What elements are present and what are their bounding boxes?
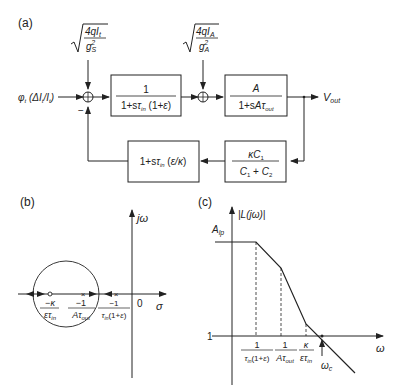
output-label: Vout — [323, 91, 341, 104]
block-feedback-zero: 1+sτin (ε/κ) — [128, 141, 199, 182]
noise1-denominator: gS2 — [86, 39, 97, 53]
jw-axis-label: jω — [135, 212, 148, 224]
svg-text:Aτout: Aτout — [71, 310, 90, 321]
panel-a-label: (a) — [18, 16, 33, 30]
svg-text:−1: −1 — [109, 299, 119, 308]
noise1-numerator: 4qIt — [85, 26, 102, 38]
bode-magnitude-plot: |L(jω)| ω Alp 1 ωc 1 τin(1+ε) 1 Aτout κ … — [207, 207, 385, 385]
omega-axis-label: ω — [376, 342, 385, 354]
svg-text:ετin: ετin — [300, 353, 313, 364]
noise2-denominator: gA2 — [199, 39, 210, 53]
alp-label: Alp — [211, 224, 224, 237]
svg-text:1+sAτout: 1+sAτout — [238, 100, 274, 112]
panel-b-label: (b) — [20, 195, 35, 209]
svg-text:Aτout: Aτout — [275, 353, 294, 364]
svg-text:A: A — [252, 83, 260, 94]
root-locus-plot: jω σ 0 × × −κ ετin −1 Aτout −1 τin(1+ε) — [18, 210, 166, 378]
svg-text:−κ: −κ — [45, 298, 55, 308]
block-capacitive-divider: κC1 C1 + C2 — [225, 141, 286, 182]
summing-junction-2 — [198, 92, 208, 102]
svg-text:κC1: κC1 — [248, 149, 264, 161]
svg-text:1+sτin (ε/κ): 1+sτin (ε/κ) — [140, 156, 186, 168]
origin-label: 0 — [137, 298, 143, 309]
diagram-canvas: (a) 4qIt gS2 4qIA gA2 φt (ΔIt/It) − 1 1+… — [0, 0, 399, 392]
pole-marker-2: × — [114, 290, 119, 299]
svg-text:κ: κ — [304, 340, 309, 350]
svg-text:ετin: ετin — [44, 310, 57, 321]
panel-c-label: (c) — [198, 195, 212, 209]
crossover-label: ωc — [321, 360, 333, 372]
noise-source-2: 4qIA gA2 — [183, 24, 219, 53]
summing-junction-1 — [83, 92, 93, 102]
svg-text:1: 1 — [282, 340, 287, 350]
noise-source-1: 4qIt gS2 — [71, 24, 108, 53]
zero-marker — [48, 292, 52, 296]
block-amplifier: A 1+sAτout — [225, 75, 287, 116]
unity-label: 1 — [207, 331, 213, 342]
svg-text:−1: −1 — [76, 298, 86, 308]
input-signal-label: φt (ΔIt/It) — [18, 92, 54, 104]
svg-text:1: 1 — [143, 84, 149, 95]
svg-text:C1 + C2: C1 + C2 — [240, 166, 273, 178]
svg-text:τin(1+ε): τin(1+ε) — [245, 354, 270, 364]
svg-text:τin(1+ε): τin(1+ε) — [102, 311, 127, 321]
minus-sign: − — [78, 105, 84, 116]
sigma-axis-label: σ — [156, 300, 163, 312]
svg-text:1+sτin (1+ε): 1+sτin (1+ε) — [121, 100, 171, 112]
noise2-numerator: 4qIA — [196, 26, 215, 38]
block-input-pole: 1 1+sτin (1+ε) — [111, 75, 181, 116]
svg-text:1: 1 — [254, 340, 259, 350]
magnitude-axis-label: |L(jω)| — [238, 209, 265, 220]
